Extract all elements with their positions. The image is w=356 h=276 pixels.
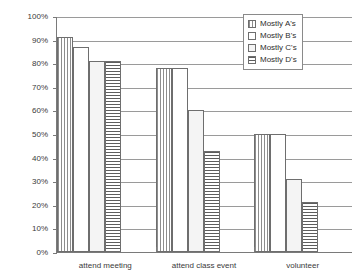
y-axis-tick-label: 70% bbox=[2, 83, 48, 92]
y-axis-tick-label: 10% bbox=[2, 224, 48, 233]
bar bbox=[286, 179, 302, 252]
bar bbox=[105, 61, 121, 252]
y-axis-tick bbox=[53, 253, 57, 254]
legend-label: Mostly A's bbox=[260, 19, 296, 29]
bar bbox=[204, 151, 220, 252]
x-axis-label: volunteer bbox=[286, 261, 319, 270]
category-separator bbox=[156, 247, 157, 252]
legend: Mostly A'sMostly B'sMostly C'sMostly D's bbox=[243, 14, 303, 70]
x-axis-label: attend class event bbox=[172, 261, 236, 270]
legend-label: Mostly C's bbox=[260, 43, 297, 53]
y-axis-tick-label: 90% bbox=[2, 36, 48, 45]
legend-item: Mostly B's bbox=[248, 30, 297, 42]
bar bbox=[156, 68, 172, 252]
legend-swatch-icon bbox=[248, 56, 256, 64]
legend-label: Mostly B's bbox=[260, 31, 296, 41]
y-axis-tick-label: 60% bbox=[2, 106, 48, 115]
bar bbox=[172, 68, 188, 252]
legend-item: Mostly C's bbox=[248, 42, 297, 54]
bar-group bbox=[156, 17, 220, 252]
legend-swatch-icon bbox=[248, 44, 256, 52]
x-axis-label: attend meeting bbox=[79, 261, 132, 270]
bar-chart: 0%10%20%30%40%50%60%70%80%90%100% attend… bbox=[0, 0, 356, 276]
bar bbox=[302, 202, 318, 252]
legend-swatch-icon bbox=[248, 32, 256, 40]
y-axis-tick-label: 30% bbox=[2, 177, 48, 186]
y-axis-tick-label: 80% bbox=[2, 59, 48, 68]
y-axis-tick-label: 40% bbox=[2, 154, 48, 163]
bar bbox=[270, 134, 286, 252]
bar bbox=[73, 47, 89, 252]
category-separator bbox=[254, 247, 255, 252]
bar bbox=[188, 110, 204, 252]
y-axis-tick-label: 0% bbox=[2, 248, 48, 257]
bar-group bbox=[57, 17, 121, 252]
bar bbox=[254, 134, 270, 252]
y-axis-tick-label: 100% bbox=[2, 12, 48, 21]
legend-item: Mostly D's bbox=[248, 54, 297, 66]
bar bbox=[89, 61, 105, 252]
legend-swatch-icon bbox=[248, 20, 256, 28]
y-axis-tick-label: 50% bbox=[2, 130, 48, 139]
y-axis-tick-label: 20% bbox=[2, 201, 48, 210]
bar bbox=[57, 37, 73, 252]
legend-label: Mostly D's bbox=[260, 55, 297, 65]
legend-item: Mostly A's bbox=[248, 18, 297, 30]
plot-area bbox=[56, 17, 352, 253]
